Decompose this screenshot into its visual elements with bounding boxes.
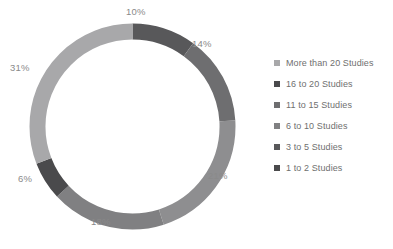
legend-item-label: 3 to 5 Studies xyxy=(286,142,342,152)
slice-label-16-to-20: 6% xyxy=(18,173,32,184)
legend-swatch-icon xyxy=(274,144,280,150)
legend-item[interactable]: 3 to 5 Studies xyxy=(274,136,389,157)
legend-item-label: 1 to 2 Studies xyxy=(286,163,342,173)
slice-label-6-to-10: 21% xyxy=(208,170,228,181)
legend-item[interactable]: More than 20 Studies xyxy=(274,52,389,73)
donut-chart-figure: 10% 14% 21% 18% 6% 31% More than 20 Stud… xyxy=(0,0,393,249)
slice-label-11-to-15: 18% xyxy=(91,216,111,227)
legend-item-label: 16 to 20 Studies xyxy=(286,79,353,89)
legend-item[interactable]: 1 to 2 Studies xyxy=(274,157,389,178)
legend-item[interactable]: 16 to 20 Studies xyxy=(274,73,389,94)
legend-swatch-icon xyxy=(274,102,280,108)
legend-swatch-icon xyxy=(274,165,280,171)
donut-svg xyxy=(27,21,238,232)
legend-item[interactable]: 6 to 10 Studies xyxy=(274,115,389,136)
legend-swatch-icon xyxy=(274,123,280,129)
legend-item-label: 11 to 15 Studies xyxy=(286,100,352,110)
legend-swatch-icon xyxy=(274,81,280,87)
legend-item[interactable]: 11 to 15 Studies xyxy=(274,94,389,115)
slice-label-1-to-2: 10% xyxy=(126,6,146,17)
legend-item-label: More than 20 Studies xyxy=(286,58,374,68)
donut-chart xyxy=(27,21,238,232)
legend-item-label: 6 to 10 Studies xyxy=(286,121,348,131)
legend: More than 20 Studies16 to 20 Studies11 t… xyxy=(274,52,389,178)
donut-slice-group xyxy=(37,31,227,221)
slice-label-3-to-5: 14% xyxy=(192,38,212,49)
slice-label-more-than-20: 31% xyxy=(10,62,30,73)
legend-swatch-icon xyxy=(274,60,280,66)
